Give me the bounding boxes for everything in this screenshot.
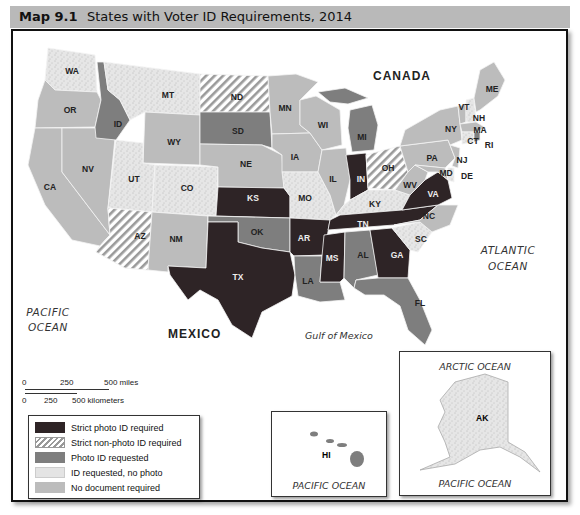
label-WY: WY <box>167 137 181 147</box>
legend-item-no-document: No document required <box>35 481 160 494</box>
label-AR: AR <box>298 233 310 243</box>
label-MO: MO <box>298 193 312 203</box>
label-VT: VT <box>459 102 471 112</box>
swatch-photo-requested <box>35 452 65 463</box>
label-RI: RI <box>485 140 494 150</box>
label-VA: VA <box>427 189 438 199</box>
swatch-id-requested <box>35 467 65 478</box>
label-MN: MN <box>278 103 291 113</box>
label-NV: NV <box>82 164 94 174</box>
label-NH: NH <box>473 113 485 123</box>
label-SC: SC <box>415 234 427 244</box>
legend-item-strict-photo: Strict photo ID required <box>35 421 164 434</box>
scale-km-500: 500 kilometers <box>72 396 124 405</box>
scale-km-250: 250 <box>44 396 57 405</box>
label-gulf-of-mexico: Gulf of Mexico <box>305 330 373 341</box>
legend-item-strict-nonphoto: Strict non-photo ID required <box>35 436 182 449</box>
scale-line-miles <box>25 389 109 390</box>
label-ID: ID <box>114 119 123 129</box>
label-NM: NM <box>169 234 182 244</box>
label-OH: OH <box>382 163 395 173</box>
swatch-no-document <box>35 482 65 493</box>
label-OK: OK <box>251 227 265 237</box>
label-IL: IL <box>329 174 337 184</box>
label-GA: GA <box>391 250 404 260</box>
hawaii-island-big-island[interactable] <box>350 451 364 467</box>
scale-km-0: 0 <box>22 396 26 405</box>
label-WV: WV <box>403 180 417 190</box>
hawaii-island-kauai[interactable] <box>310 432 318 437</box>
label-MD: MD <box>439 168 452 178</box>
legend-item-id-requested: ID requested, no photo <box>35 466 163 479</box>
label-TN: TN <box>357 219 368 229</box>
label-MT: MT <box>162 90 175 100</box>
alaska-map <box>400 352 550 495</box>
label-atlantic-2: OCEAN <box>488 260 528 272</box>
label-pacific-2: OCEAN <box>28 321 68 333</box>
scale-miles-250: 250 <box>60 378 73 387</box>
scale-miles-0: 0 <box>22 378 26 387</box>
scale-bar: 0 250 500 miles 0 250 500 kilometers <box>22 378 162 410</box>
label-IN: IN <box>357 174 366 184</box>
label-SD: SD <box>232 126 244 136</box>
label-ME: ME <box>486 84 499 94</box>
swatch-strict-nonphoto <box>35 437 65 448</box>
label-IA: IA <box>291 152 300 162</box>
scale-line-km <box>25 393 77 394</box>
label-pacific-1: PACIFIC <box>26 306 70 318</box>
label-UT: UT <box>128 174 140 184</box>
label-CA: CA <box>44 182 56 192</box>
hawaii-inset: HI PACIFIC OCEAN <box>271 411 387 497</box>
label-NY: NY <box>445 124 457 134</box>
label-NJ: NJ <box>457 155 468 165</box>
label-mexico: MEXICO <box>168 327 221 341</box>
hawaii-island-oahu[interactable] <box>326 439 334 443</box>
label-NC: NC <box>423 211 435 221</box>
label-DE: DE <box>461 171 473 181</box>
label-FL: FL <box>415 298 425 308</box>
label-WI: WI <box>318 120 328 130</box>
label-MA: MA <box>473 125 486 135</box>
hawaii-island-maui[interactable] <box>337 443 347 447</box>
label-CT: CT <box>467 136 479 146</box>
label-AL: AL <box>357 250 368 260</box>
label-OR: OR <box>64 105 77 115</box>
state-AK[interactable] <box>420 374 540 472</box>
label-KS: KS <box>247 193 259 203</box>
label-KY: KY <box>369 199 381 209</box>
legend-item-photo-requested: Photo ID requested <box>35 451 149 464</box>
label-HI: HI <box>322 450 331 460</box>
label-LA: LA <box>302 276 313 286</box>
label-atlantic-1: ATLANTIC <box>480 244 536 256</box>
label-alaska-pacific: PACIFIC OCEAN <box>400 478 550 489</box>
label-TX: TX <box>233 272 244 282</box>
alaska-inset: ARCTIC OCEAN AK PACIFIC OCEAN <box>399 351 551 496</box>
label-NE: NE <box>240 159 252 169</box>
state-MI[interactable] <box>348 105 378 152</box>
label-CO: CO <box>181 183 194 193</box>
scale-miles-500: 500 miles <box>104 378 138 387</box>
label-WA: WA <box>65 66 79 76</box>
label-hawaii-pacific: PACIFIC OCEAN <box>272 480 386 491</box>
label-ND: ND <box>231 92 243 102</box>
label-MI: MI <box>357 132 366 142</box>
map-legend: Strict photo ID required Strict non-phot… <box>28 415 200 499</box>
label-arctic-ocean: ARCTIC OCEAN <box>400 361 550 372</box>
swatch-strict-photo <box>35 422 65 433</box>
label-AZ: AZ <box>134 231 145 241</box>
label-MS: MS <box>326 253 339 263</box>
label-PA: PA <box>426 153 437 163</box>
label-AK: AK <box>476 413 488 423</box>
label-canada: CANADA <box>373 69 431 83</box>
